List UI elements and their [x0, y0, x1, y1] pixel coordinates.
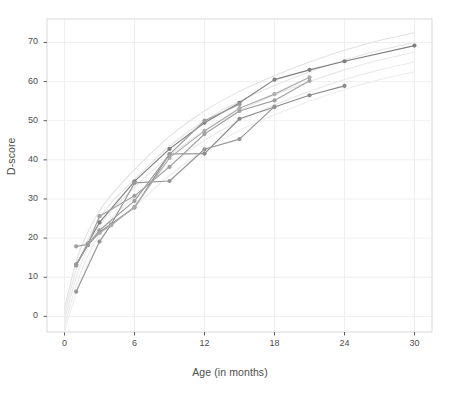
x-tick-label: 12: [190, 338, 220, 348]
y-tick-label: 20: [14, 232, 38, 242]
plot-canvas: [0, 0, 460, 394]
data-point-marker: [109, 223, 113, 227]
data-point-marker: [342, 59, 346, 63]
d-score-growth-chart: D-score Age (in months) 0102030405060700…: [0, 0, 460, 394]
data-point-marker: [167, 179, 171, 183]
data-point-marker: [167, 165, 171, 169]
data-point-marker: [202, 129, 206, 133]
data-point-marker: [307, 93, 311, 97]
data-point-marker: [132, 194, 136, 198]
y-tick-label: 50: [14, 115, 38, 125]
data-point-marker: [307, 68, 311, 72]
data-point-marker: [342, 84, 346, 88]
y-tick-label: 60: [14, 76, 38, 86]
panel-background: [47, 19, 432, 332]
data-point-marker: [272, 92, 276, 96]
data-point-marker: [202, 147, 206, 151]
data-point-marker: [237, 137, 241, 141]
data-point-marker: [202, 151, 206, 155]
data-point-marker: [132, 199, 136, 203]
data-point-marker: [97, 240, 101, 244]
y-tick-label: 40: [14, 154, 38, 164]
data-point-marker: [167, 152, 171, 156]
data-point-marker: [272, 98, 276, 102]
y-tick-label: 30: [14, 193, 38, 203]
data-point-marker: [74, 290, 78, 294]
data-point-marker: [97, 214, 101, 218]
data-point-marker: [86, 243, 90, 247]
x-tick-label: 0: [50, 338, 80, 348]
data-point-marker: [237, 102, 241, 106]
data-point-marker: [97, 228, 101, 232]
data-point-marker: [237, 106, 241, 110]
data-point-marker: [132, 181, 136, 185]
y-tick-label: 10: [14, 271, 38, 281]
data-point-marker: [307, 75, 311, 79]
data-point-marker: [74, 263, 78, 267]
x-tick-label: 18: [260, 338, 290, 348]
data-point-marker: [132, 205, 136, 209]
y-tick-label: 70: [14, 36, 38, 46]
data-point-marker: [237, 117, 241, 121]
data-point-marker: [272, 78, 276, 82]
y-tick-label: 0: [14, 310, 38, 320]
data-point-marker: [412, 44, 416, 48]
x-tick-label: 6: [120, 338, 150, 348]
x-axis-title: Age (in months): [0, 366, 460, 378]
panel-border: [47, 19, 432, 332]
data-point-marker: [202, 119, 206, 123]
data-point-marker: [272, 105, 276, 109]
data-point-marker: [167, 147, 171, 151]
data-point-marker: [74, 244, 78, 248]
x-tick-label: 24: [330, 338, 360, 348]
x-tick-label: 30: [400, 338, 430, 348]
